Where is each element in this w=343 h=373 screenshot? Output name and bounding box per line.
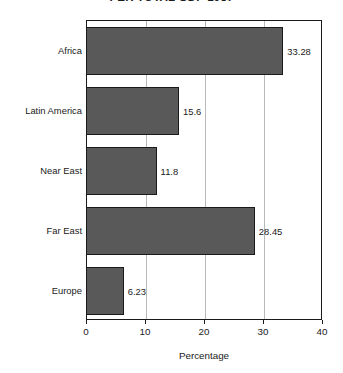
x-tick-label: 40 — [317, 326, 328, 337]
x-tick-label: 30 — [258, 326, 269, 337]
plot-area: 33.2815.611.828.456.23 — [86, 20, 322, 320]
x-tick-mark — [145, 320, 146, 324]
category-label: Near East — [40, 165, 82, 176]
category-label: Latin America — [25, 105, 82, 116]
bar-row: 33.28 — [87, 27, 321, 75]
x-tick-mark — [263, 320, 264, 324]
bar-value-label: 11.8 — [157, 166, 179, 177]
bar[interactable] — [86, 267, 124, 315]
category-label: Europe — [52, 285, 82, 296]
bar-value-label: 15.6 — [179, 106, 201, 117]
x-axis-title: Percentage — [86, 350, 322, 361]
bar-row: 28.45 — [87, 207, 321, 255]
value-axis: 010203040 — [86, 320, 322, 350]
bar[interactable] — [86, 87, 179, 135]
bar-row: 6.23 — [87, 267, 321, 315]
category-label: Africa — [58, 45, 82, 56]
bar-value-label: 6.23 — [124, 286, 146, 297]
bar-value-label: 28.45 — [255, 226, 282, 237]
x-tick-mark — [86, 320, 87, 324]
bar[interactable] — [86, 27, 283, 75]
x-tick-mark — [204, 320, 205, 324]
bar-row: 15.6 — [87, 87, 321, 135]
x-tick-mark — [322, 320, 323, 324]
bar[interactable] — [86, 147, 157, 195]
bar-value-label: 33.28 — [283, 46, 310, 57]
category-axis-labels: AfricaLatin AmericaNear EastFar EastEuro… — [0, 20, 82, 320]
category-label: Far East — [47, 225, 82, 236]
bar-chart: PER TOTAL GDP 1987 33.2815.611.828.456.2… — [0, 0, 343, 373]
bar[interactable] — [86, 207, 255, 255]
bar-row: 11.8 — [87, 147, 321, 195]
x-tick-label: 20 — [199, 326, 210, 337]
bars-layer: 33.2815.611.828.456.23 — [87, 21, 321, 319]
chart-title: PER TOTAL GDP 1987 — [0, 0, 343, 3]
x-tick-label: 10 — [140, 326, 151, 337]
x-tick-label: 0 — [83, 326, 88, 337]
